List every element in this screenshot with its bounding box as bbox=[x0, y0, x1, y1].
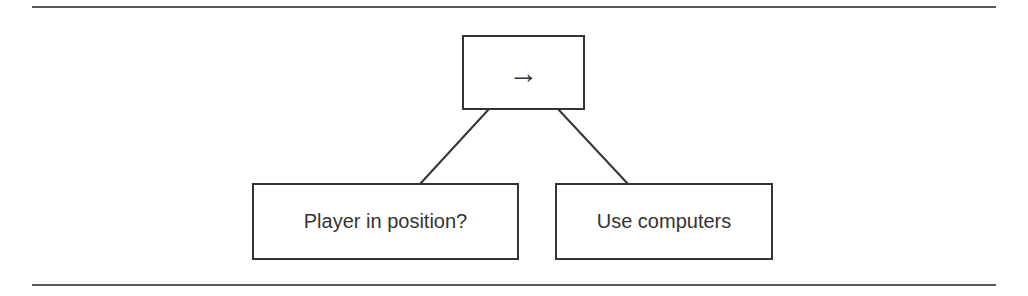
action-node: Use computers bbox=[555, 183, 773, 260]
sequence-node: → bbox=[462, 35, 585, 110]
condition-label: Player in position? bbox=[304, 210, 467, 233]
arrow-right-icon: → bbox=[509, 56, 539, 90]
action-label: Use computers bbox=[597, 210, 732, 233]
condition-node: Player in position? bbox=[252, 183, 519, 260]
edge-root-to-action bbox=[558, 109, 628, 184]
edge-root-to-condition bbox=[420, 109, 489, 184]
